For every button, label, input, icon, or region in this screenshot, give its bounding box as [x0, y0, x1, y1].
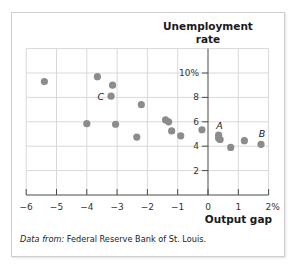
x-tick-label: −3: [110, 202, 123, 212]
data-point: [133, 133, 140, 140]
point-label-b: B: [259, 128, 266, 139]
y-axis-title: Unemployment: [163, 20, 253, 32]
source-text: Federal Reserve Bank of St. Louis.: [64, 234, 206, 244]
point-label-a: A: [215, 120, 223, 131]
y-tick-label: 2: [193, 166, 199, 176]
data-point: [112, 121, 119, 128]
data-point: [138, 101, 145, 108]
point-label-c: C: [97, 91, 104, 102]
data-point: [177, 132, 184, 139]
data-point: [257, 141, 264, 148]
data-point: [94, 73, 101, 80]
y-tick-label: 8: [193, 92, 199, 102]
x-tick-label: 1: [235, 202, 241, 212]
data-point: [217, 136, 224, 143]
x-tick-label: 0: [205, 202, 211, 212]
data-point: [227, 144, 234, 151]
x-tick-label: −6: [20, 202, 34, 212]
data-point: [198, 126, 205, 133]
data-point: [241, 137, 248, 144]
x-axis-title: Output gap: [205, 213, 273, 225]
data-point: [107, 93, 114, 100]
y-axis-title: rate: [196, 33, 220, 45]
source-prefix: Data from:: [20, 234, 64, 244]
data-point: [168, 127, 175, 134]
point-labels: CAB: [97, 91, 265, 140]
data-points: [41, 73, 265, 151]
x-tick-label: −2: [141, 202, 154, 212]
data-point: [109, 82, 116, 89]
scatter-chart: −6−5−4−3−2−1012%246810% CAB Unemployment…: [0, 0, 302, 266]
x-tick-label: −4: [80, 202, 94, 212]
data-point: [83, 120, 90, 127]
data-point: [165, 118, 172, 125]
y-tick-label: 4: [193, 141, 199, 151]
data-point: [41, 78, 48, 85]
grid: [26, 49, 268, 195]
x-tick-label: −1: [171, 202, 184, 212]
x-tick-label: −5: [50, 202, 63, 212]
y-tick-label: 6: [193, 117, 199, 127]
x-tick-label: 2%: [265, 202, 280, 212]
y-tick-label: 10%: [179, 68, 199, 78]
data-source-note: Data from: Federal Reserve Bank of St. L…: [20, 234, 206, 244]
